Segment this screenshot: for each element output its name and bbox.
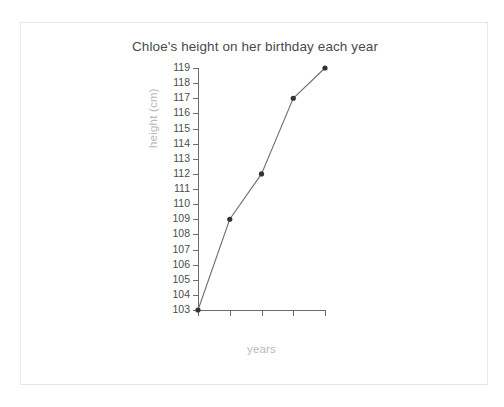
y-tick-label: 111	[174, 182, 190, 195]
y-tick-label: 119	[173, 61, 190, 74]
x-tick: 2017	[325, 311, 326, 316]
y-tick-label: 110	[173, 197, 190, 210]
y-tick-label: 107	[172, 243, 190, 256]
data-point	[195, 307, 200, 312]
data-point	[227, 217, 232, 222]
y-tick-label: 115	[173, 122, 190, 135]
data-point	[322, 65, 327, 70]
y-tick-label: 114	[173, 137, 190, 150]
x-axis-label: years	[198, 343, 325, 355]
y-tick-label: 118	[173, 76, 190, 89]
chart-title: Chloe's height on her birthday each year	[21, 39, 489, 54]
y-tick-label: 113	[173, 152, 190, 165]
series-line	[198, 68, 325, 310]
x-tick: 2014	[230, 311, 231, 316]
x-tick: 2016	[293, 311, 294, 316]
height-series	[198, 68, 325, 311]
y-tick-label: 103	[172, 303, 190, 316]
y-tick-label: 106	[172, 258, 190, 271]
y-tick-label: 104	[172, 288, 190, 301]
plot-area: 1031041051061071081091101111121131141151…	[198, 68, 325, 310]
y-tick-label: 105	[172, 273, 190, 286]
chart-card: Chloe's height on her birthday each year…	[20, 22, 488, 385]
y-tick-label: 108	[172, 227, 190, 240]
y-tick-label: 109	[172, 212, 190, 225]
x-tick: 2015	[262, 311, 263, 316]
y-axis-label: height (cm)	[147, 88, 159, 148]
y-tick-label: 117	[173, 91, 190, 104]
data-point	[291, 96, 296, 101]
y-tick-label: 112	[173, 167, 190, 180]
series-markers	[195, 65, 327, 312]
data-point	[259, 171, 264, 176]
y-tick-label: 116	[173, 106, 190, 119]
